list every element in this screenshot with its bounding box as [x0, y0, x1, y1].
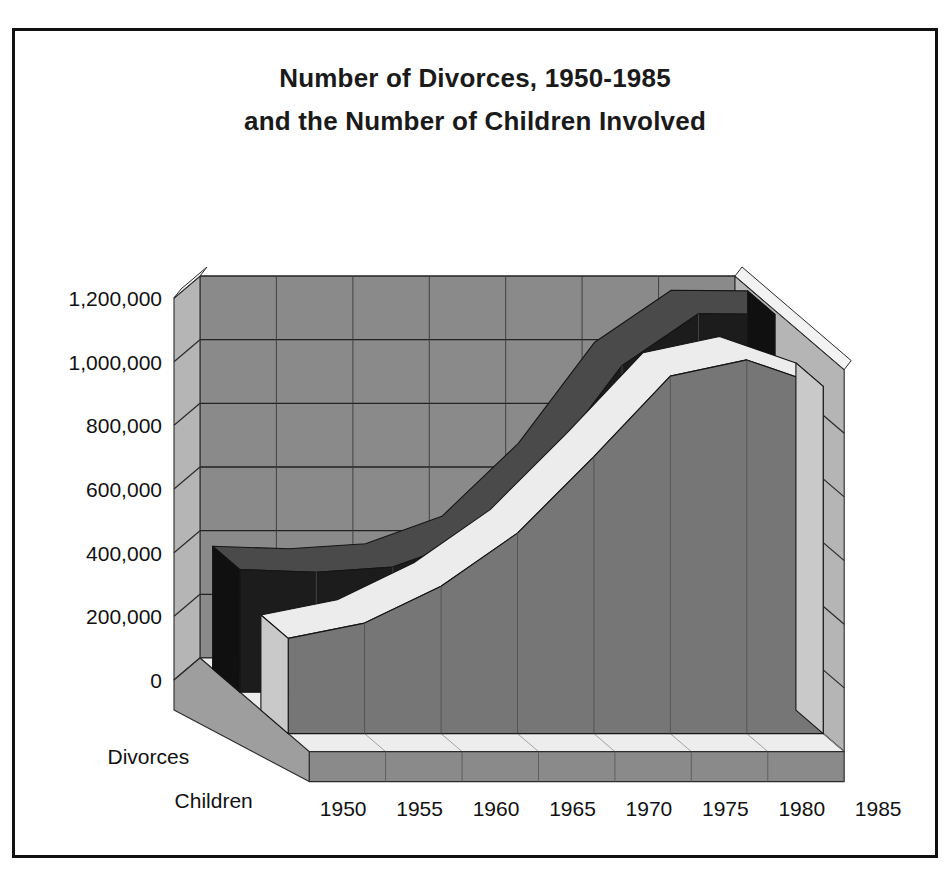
x-axis-tick-label-1950: 1950	[320, 797, 367, 820]
x-axis-tick-label-1970: 1970	[626, 797, 673, 820]
x-axis-tick-label-1960: 1960	[473, 797, 520, 820]
x-axis-tick-label-1985: 1985	[855, 797, 902, 820]
series-axis-label-divorces: Divorces	[108, 745, 190, 768]
series-left-cap	[213, 546, 240, 692]
series-right-cap	[796, 363, 823, 734]
y-axis-tick-label: 200,000	[86, 605, 162, 628]
x-axis-tick-label-1975: 1975	[702, 797, 749, 820]
y-axis-tick-label: 400,000	[86, 542, 162, 565]
y-axis-tick-label: 600,000	[86, 478, 162, 501]
chart-plot-area: 1,200,0001,000,000800,000600,000400,0002…	[15, 31, 941, 861]
x-axis-tick-label-1980: 1980	[778, 797, 825, 820]
y-axis-tick-label: 1,000,000	[69, 351, 162, 374]
chart-page: Number of Divorces, 1950-1985 and the Nu…	[0, 0, 951, 870]
x-axis-tick-label-1965: 1965	[549, 797, 596, 820]
y-axis-tick-label: 0	[150, 669, 162, 692]
y-axis-tick-label: 1,200,000	[69, 287, 162, 310]
y-axis-tick-label: 800,000	[86, 414, 162, 437]
series-axis-label-children: Children	[175, 789, 253, 812]
floor-front-face	[309, 752, 844, 782]
x-axis-tick-label-1955: 1955	[396, 797, 443, 820]
chart-frame: Number of Divorces, 1950-1985 and the Nu…	[12, 28, 938, 858]
